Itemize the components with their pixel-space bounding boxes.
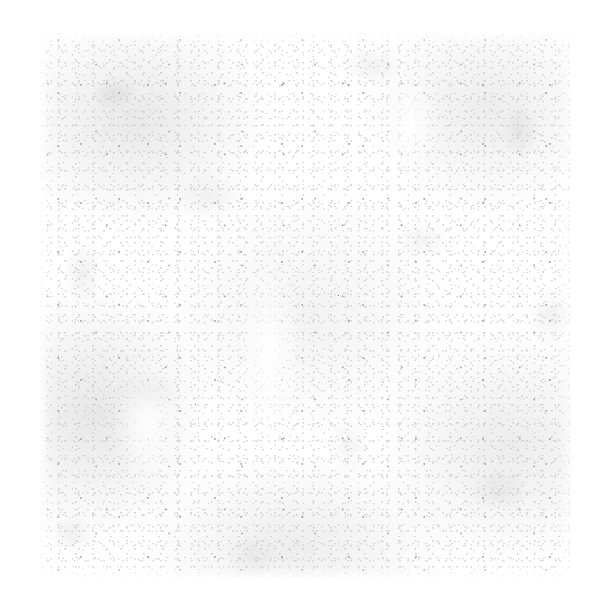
document-page: Near-blank scanned sheet with mottled pa… [0,0,590,596]
paper-fleck-layer [40,33,573,578]
faded-highlight-shape-left [109,349,184,513]
paper-grain-layer [40,33,573,578]
paper-tone-layer [40,33,573,578]
dark-speck [338,295,339,296]
faded-highlight-shape-top [376,66,445,186]
paper-mottle-layer [40,33,573,578]
scanned-sheet [40,33,573,578]
sheet-edge-feather [40,33,573,578]
faded-highlight-shape-center [221,251,312,491]
dark-speck [195,404,196,405]
